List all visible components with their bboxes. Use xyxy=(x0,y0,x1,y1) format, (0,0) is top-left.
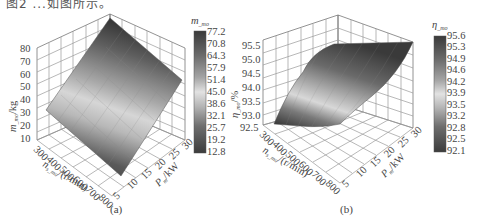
svg-text:64.3: 64.3 xyxy=(207,50,225,61)
svg-text:93.9: 93.9 xyxy=(447,87,465,98)
svg-text:95.5: 95.5 xyxy=(242,40,260,51)
svg-text:92.8: 92.8 xyxy=(447,122,465,133)
svg-text:15: 15 xyxy=(368,154,383,169)
svg-text:93.5: 93.5 xyxy=(447,99,465,110)
svg-text:25: 25 xyxy=(167,146,182,161)
svg-text:30: 30 xyxy=(20,107,31,118)
svg-text:60: 60 xyxy=(20,69,31,80)
svg-text:93.2: 93.2 xyxy=(447,110,465,121)
svg-text:94.6: 94.6 xyxy=(447,64,465,75)
svg-text:93.0: 93.0 xyxy=(242,110,260,121)
svg-text:45.0: 45.0 xyxy=(207,86,225,97)
svg-text:92.1: 92.1 xyxy=(447,145,465,156)
svg-text:25.7: 25.7 xyxy=(207,122,225,133)
svg-text:95.6: 95.6 xyxy=(447,30,465,41)
svg-text:70.8: 70.8 xyxy=(207,38,225,49)
svg-text:92.5: 92.5 xyxy=(447,133,465,144)
svg-text:94.5: 94.5 xyxy=(242,68,260,79)
svg-text:77.2: 77.2 xyxy=(207,26,225,37)
svg-text:15: 15 xyxy=(139,166,154,181)
svg-text:20: 20 xyxy=(20,120,31,131)
svg-text:92.5: 92.5 xyxy=(240,122,258,133)
panel-a-z-label: m_mo/kg xyxy=(7,100,19,132)
panel-b-colorbar: η_mo 95.6 95.3 94.9 94.6 94.2 93.9 93.5 … xyxy=(432,19,465,156)
svg-text:95.3: 95.3 xyxy=(447,41,465,52)
svg-text:50: 50 xyxy=(20,81,31,92)
svg-text:10: 10 xyxy=(20,133,31,144)
svg-text:93.5: 93.5 xyxy=(242,96,260,107)
svg-text:12.8: 12.8 xyxy=(207,146,225,157)
panel-a-label: (a) xyxy=(110,203,123,216)
svg-text:10: 10 xyxy=(125,176,140,191)
svg-text:95.0: 95.0 xyxy=(242,54,260,65)
panel-b-label: (b) xyxy=(340,203,353,216)
svg-text:32.1: 32.1 xyxy=(207,110,225,121)
svg-text:51.4: 51.4 xyxy=(207,74,226,85)
svg-text:70: 70 xyxy=(20,56,31,67)
svg-text:38.6: 38.6 xyxy=(207,98,225,109)
svg-text:10: 10 xyxy=(354,164,369,179)
panel-b-z-ticks: 95.5 95.0 94.5 94.0 93.5 93.0 92.5 xyxy=(240,40,260,133)
svg-text:30: 30 xyxy=(409,124,424,139)
svg-text:94.9: 94.9 xyxy=(447,53,465,64)
svg-text:94.2: 94.2 xyxy=(447,76,465,87)
svg-text:η_mo: η_mo xyxy=(432,19,448,31)
panel-a-colorbar: m_mo 77.2 70.8 64.3 57.9 51.4 45.0 38.6 … xyxy=(191,15,226,157)
panel-b: 95.5 95.0 94.5 94.0 93.5 93.0 92.5 η_mo/… xyxy=(229,15,465,216)
figure-canvas: 80 70 60 50 40 30 20 10 m_mo/kg 300 400 … xyxy=(0,0,477,224)
panel-a-z-ticks: 80 70 60 50 40 30 20 10 xyxy=(20,43,31,144)
svg-text:40: 40 xyxy=(20,94,31,105)
svg-text:57.9: 57.9 xyxy=(207,62,225,73)
svg-text:94.0: 94.0 xyxy=(242,82,260,93)
svg-text:19.2: 19.2 xyxy=(207,134,225,145)
panel-b-z-label: η_mo/% xyxy=(229,91,241,118)
svg-text:80: 80 xyxy=(20,43,31,54)
panel-a: 80 70 60 50 40 30 20 10 m_mo/kg 300 400 … xyxy=(7,14,226,216)
